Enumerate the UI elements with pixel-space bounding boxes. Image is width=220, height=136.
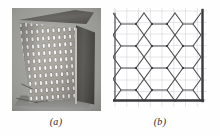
honeycomb-front-face	[18, 20, 79, 103]
block-edge-highlight	[75, 28, 77, 104]
panel-b-mesh-diagram	[113, 8, 207, 107]
block-right-side-face	[76, 18, 95, 108]
caption-panel-b: (b)	[130, 116, 190, 127]
panel-a-photograph	[12, 8, 101, 111]
background-grid	[113, 8, 207, 107]
hexagonal-cell-texture	[18, 20, 79, 103]
figure-root: (a) (b)	[0, 0, 220, 136]
caption-panel-a: (a)	[26, 116, 86, 127]
honeycomb-mesh-svg	[113, 8, 207, 107]
